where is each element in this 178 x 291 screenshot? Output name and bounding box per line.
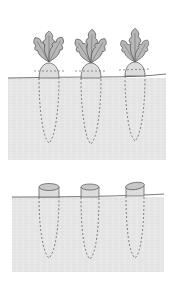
panel-with-tops: [8, 28, 166, 160]
leaf-tops: [117, 28, 152, 64]
panel-tops-removed: [12, 181, 164, 272]
leaf-tops: [71, 29, 110, 66]
soil-area: [8, 78, 166, 160]
cut-surface: [81, 184, 99, 190]
root-crown: [39, 63, 59, 78]
root-crown: [81, 63, 101, 78]
cut-surface: [39, 184, 59, 191]
soil-area: [12, 197, 164, 272]
root-vegetable-illustration: [0, 0, 178, 291]
leaf-tops: [30, 31, 67, 65]
root-crown: [125, 62, 145, 76]
